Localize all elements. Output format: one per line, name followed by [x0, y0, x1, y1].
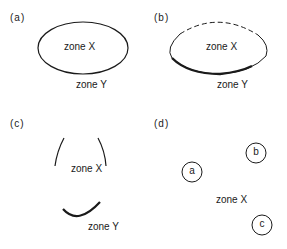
panel-c-label: (c)	[10, 118, 25, 129]
panel-b-dashed-boundary	[180, 22, 258, 35]
panel-c-right-arc	[98, 138, 106, 166]
panel-d-label: (d)	[154, 118, 169, 129]
panel-b-label: (b)	[154, 12, 169, 23]
panel-a-zone-y: zone Y	[76, 79, 107, 90]
panel-c-zone-x: zone X	[71, 163, 102, 174]
panel-c-bottom-arc	[63, 202, 100, 216]
panel-b-thick-boundary	[172, 58, 252, 74]
panel-d-circle-a-label: a	[187, 165, 197, 176]
panel-c-zone-y: zone Y	[88, 221, 119, 232]
panel-d-zone-x: zone X	[216, 194, 247, 205]
panel-a-zone-x: zone X	[64, 41, 95, 52]
panel-b-zone-x: zone X	[206, 41, 237, 52]
diagram-canvas	[0, 0, 287, 249]
panel-a-label: (a)	[10, 12, 25, 23]
panel-d-circle-b-label: b	[251, 146, 261, 157]
panel-d-circle-c-label: c	[257, 218, 267, 229]
panel-b-zone-y: zone Y	[217, 79, 248, 90]
panel-c-left-arc	[55, 138, 64, 166]
